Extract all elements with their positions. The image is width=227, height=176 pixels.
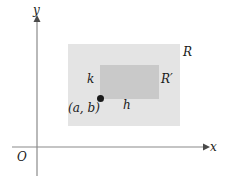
x-axis-arrowhead: [203, 144, 210, 151]
width-dimension-label: h: [123, 99, 131, 111]
region-R-label: R: [183, 46, 192, 58]
region-R-prime-label: R′: [161, 73, 173, 85]
point-ab-label: (a, b): [68, 102, 100, 114]
region-R-prime-rectangle: [100, 65, 159, 99]
y-axis-label: y: [33, 4, 40, 16]
x-axis-label: x: [210, 141, 217, 153]
origin-label: O: [17, 151, 27, 163]
height-dimension-label: k: [87, 73, 94, 85]
figure-canvas: y x O R R′ k h (a, b): [0, 0, 227, 176]
